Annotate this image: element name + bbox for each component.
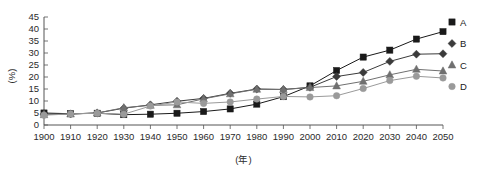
data-point-D (254, 96, 261, 103)
data-point-B (359, 68, 367, 76)
data-point-D (94, 110, 101, 117)
data-point-B (412, 50, 420, 58)
y-axis-title: (%) (6, 69, 17, 84)
y-tick-label: 20 (28, 71, 39, 82)
y-tick-label: 30 (28, 47, 39, 58)
data-point-D (413, 73, 420, 80)
data-point-D (67, 111, 74, 118)
legend-marker-C (448, 61, 456, 68)
data-point-D (200, 100, 207, 107)
data-point-D (333, 92, 340, 99)
legend-label-A: A (460, 17, 467, 28)
x-axis-title-group: (年) (235, 154, 251, 165)
y-tick-label: 45 (28, 11, 39, 22)
data-point-A (413, 36, 419, 42)
series-line-A (44, 32, 443, 115)
data-point-D (121, 111, 128, 118)
x-tick-label: 1950 (166, 131, 187, 142)
data-point-D (360, 85, 367, 92)
data-point-A (174, 110, 180, 116)
x-tick-label: 1990 (273, 131, 294, 142)
data-point-A (227, 106, 233, 112)
data-point-A (147, 111, 153, 117)
data-point-D (41, 112, 48, 119)
data-point-D (440, 75, 447, 82)
x-axis-ticks-group: 1900191019201930194019501960197019801990… (33, 125, 453, 142)
y-tick-label: 10 (28, 95, 39, 106)
x-axis-title: (年) (235, 154, 251, 165)
data-series-group (40, 29, 447, 119)
series-C (40, 65, 447, 118)
data-point-A (360, 54, 366, 60)
legend-marker-B (448, 40, 456, 48)
data-point-A (440, 29, 446, 35)
legend-label-B: B (460, 38, 466, 49)
y-tick-label: 35 (28, 35, 39, 46)
x-tick-label: 2020 (353, 131, 374, 142)
data-point-D (280, 93, 287, 100)
series-B (40, 50, 447, 118)
y-tick-label: 0 (34, 119, 39, 130)
data-point-A (201, 108, 207, 114)
series-A (41, 29, 446, 118)
data-point-A (387, 47, 393, 53)
series-line-B (44, 54, 443, 114)
y-axis-title-group: (%) (6, 69, 17, 84)
chart-canvas: (%) 051015202530354045 19001910192019301… (0, 0, 502, 178)
x-tick-label: 2030 (379, 131, 400, 142)
x-tick-label: 1940 (140, 131, 161, 142)
legend-label-C: C (460, 60, 467, 71)
data-point-B (386, 57, 394, 65)
y-tick-label: 40 (28, 23, 39, 34)
y-tick-label: 15 (28, 83, 39, 94)
legend-marker-D (449, 83, 456, 90)
series-line-C (44, 69, 443, 114)
x-tick-label: 1970 (220, 131, 241, 142)
data-point-C (413, 65, 421, 72)
legend-marker-A (449, 19, 455, 25)
data-point-D (307, 94, 314, 101)
x-tick-label: 1960 (193, 131, 214, 142)
data-point-D (147, 103, 154, 110)
x-tick-label: 2050 (432, 131, 453, 142)
x-tick-label: 1910 (60, 131, 81, 142)
axis-lines-group (44, 17, 443, 125)
y-tick-label: 25 (28, 59, 39, 70)
y-tick-label: 5 (34, 107, 39, 118)
series-line-D (44, 76, 443, 115)
x-tick-label: 2040 (406, 131, 427, 142)
data-point-D (387, 77, 394, 84)
data-point-D (174, 99, 181, 106)
x-tick-label: 1980 (246, 131, 267, 142)
x-tick-label: 1930 (113, 131, 134, 142)
x-tick-label: 1900 (33, 131, 54, 142)
legend-label-D: D (460, 81, 467, 92)
x-tick-label: 2000 (299, 131, 320, 142)
data-point-B (439, 50, 447, 58)
series-D (41, 73, 447, 118)
line-chart: (%) 051015202530354045 19001910192019301… (0, 0, 502, 178)
legend-group: ABCD (448, 17, 467, 93)
data-point-D (227, 99, 234, 106)
x-tick-label: 2010 (326, 131, 347, 142)
x-tick-label: 1920 (87, 131, 108, 142)
